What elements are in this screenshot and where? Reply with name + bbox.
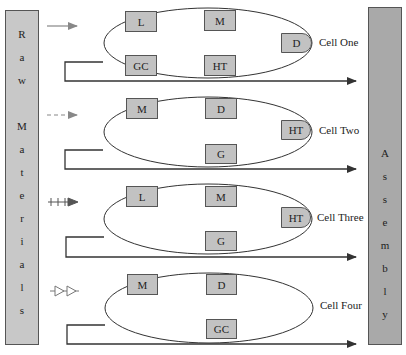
machine-box: GC <box>206 319 237 339</box>
assembly-letter: s <box>383 171 387 182</box>
cell-three-label: Cell Three <box>317 211 364 223</box>
raw-letter: w <box>18 75 26 86</box>
machine-box: M <box>204 10 236 31</box>
machine-box: M <box>127 274 158 295</box>
cell-one-label: Cell One <box>319 36 358 48</box>
assembly-bar: A s s e m b l y <box>368 7 402 345</box>
machine-box: D <box>281 33 312 53</box>
raw-letter: a <box>20 259 25 270</box>
triangle-input-arrow-icon <box>50 286 79 296</box>
machine-box: HT <box>281 207 311 228</box>
assembly-letter: A <box>381 148 389 159</box>
assembly-letter: y <box>382 309 388 320</box>
assembly-letter: b <box>382 263 388 274</box>
cell-four-flow <box>50 273 356 344</box>
machine-box: D <box>205 98 237 119</box>
raw-letter: e <box>20 190 25 201</box>
machine-box: G <box>205 144 237 164</box>
assembly-letter: m <box>381 240 390 251</box>
raw-letter: a <box>20 52 25 63</box>
cell-two-label: Cell Two <box>319 124 359 136</box>
raw-letter: s <box>20 305 24 316</box>
raw-letter: M <box>17 121 27 132</box>
machine-box: M <box>126 98 158 119</box>
raw-letter: R <box>18 29 25 40</box>
plus-input-arrow-icon <box>48 198 78 206</box>
machine-box: G <box>205 231 237 251</box>
machine-box: L <box>125 11 157 32</box>
raw-letter: t <box>20 167 23 178</box>
raw-letter: i <box>20 236 23 247</box>
cell-four-label: Cell Four <box>320 299 362 311</box>
raw-letter: r <box>20 213 24 224</box>
assembly-letter: e <box>383 217 388 228</box>
assembly-letter: l <box>383 286 386 297</box>
assembly-letter: s <box>383 194 387 205</box>
machine-box: GC <box>125 55 157 76</box>
machine-box: M <box>205 186 237 207</box>
raw-materials-bar: R a w M a t e r i a l s <box>5 10 39 345</box>
machine-box: D <box>206 274 237 295</box>
machine-box: HT <box>281 120 311 140</box>
machine-box: HT <box>204 55 236 76</box>
raw-letter: l <box>20 282 23 293</box>
raw-letter: a <box>20 144 25 155</box>
machine-box: L <box>126 186 158 207</box>
